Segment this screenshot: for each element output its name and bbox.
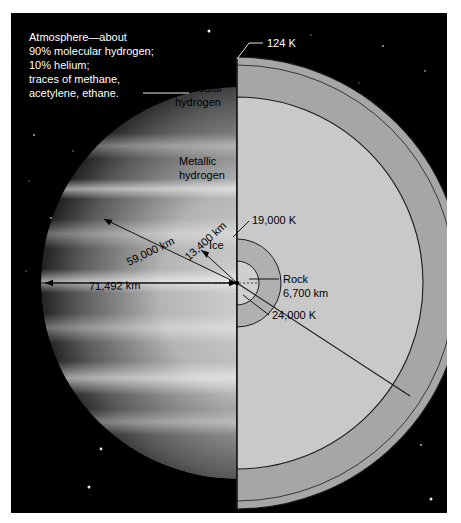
label-molecular-hydrogen-line2: hydrogen: [175, 96, 221, 108]
figure-plate: 71,492 km 59,000 km 13,400 km Molecular …: [11, 13, 447, 513]
label-rock-line2: 6,700 km: [283, 287, 328, 299]
atmosphere-line-5: acetylene, ethane.: [29, 87, 119, 99]
label-temp-core: 24,000 K: [272, 309, 317, 321]
atmosphere-line-4: traces of methane,: [29, 73, 120, 85]
label-rock-line1: Rock: [283, 273, 309, 285]
label-metallic-hydrogen-line1: Metallic: [179, 155, 217, 167]
label-temp-ice: 19,000 K: [252, 214, 297, 226]
temp-top-callout: 124 K: [237, 37, 296, 59]
label-metallic-hydrogen-line2: hydrogen: [179, 169, 225, 181]
jupiter-interior-figure: 71,492 km 59,000 km 13,400 km Molecular …: [0, 0, 461, 523]
label-molecular-hydrogen-line1: Molecular: [175, 82, 223, 94]
label-ice: Ice: [209, 239, 224, 251]
atmosphere-line-1: Atmosphere—about: [29, 31, 127, 43]
diagram-svg: 71,492 km 59,000 km 13,400 km Molecular …: [11, 13, 447, 513]
atmosphere-line-2: 90% molecular hydrogen;: [29, 45, 154, 57]
atmosphere-line-3: 10% helium;: [29, 59, 90, 71]
dim-label-outer: 71,492 km: [89, 279, 141, 292]
label-temp-top: 124 K: [267, 37, 296, 49]
atmosphere-callout: Atmosphere—about 90% molecular hydrogen;…: [29, 31, 189, 99]
